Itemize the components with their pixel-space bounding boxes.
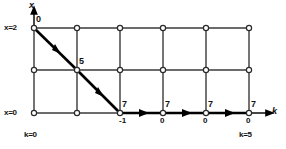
x-axis-label: x: [29, 1, 34, 10]
node-label-step1-below: 0: [160, 117, 164, 125]
k-end-value-label: k=5: [239, 131, 252, 139]
node-label-corner-below: -1: [119, 117, 126, 125]
x-bottom-value-label: x=0: [4, 109, 17, 117]
node-label-step3-below: 0: [246, 117, 250, 125]
trellis-figure: x k x=2 x=0 k=0 k=5 0 5 7 -1 7 0 7 0 7 0: [0, 0, 286, 149]
k-start-value-label: k=0: [24, 131, 37, 139]
node-label-step2: 7: [208, 100, 213, 109]
node-label-corner: 7: [122, 100, 127, 109]
grid-horizontal-lines: [34, 28, 249, 113]
k-axis-label: k: [272, 107, 277, 116]
node-label-step3: 7: [251, 100, 256, 109]
node-label-step1: 7: [165, 100, 170, 109]
x-top-value-label: x=2: [4, 24, 17, 32]
node-label-mid: 5: [79, 57, 84, 66]
trellis-canvas: [0, 0, 286, 149]
node-label-step2-below: 0: [203, 117, 207, 125]
node-label-start: 0: [36, 15, 41, 24]
